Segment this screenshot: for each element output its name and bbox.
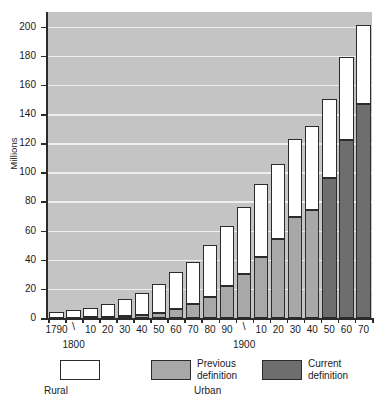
y-axis-line <box>46 12 48 320</box>
x-axis-line <box>46 318 374 320</box>
x-axis-label: 20 <box>273 324 284 335</box>
x-axis-tick <box>201 318 203 323</box>
x-axis-tick <box>116 318 118 323</box>
x-axis-label: 50 <box>324 324 335 335</box>
bar-segment-rural <box>305 126 319 209</box>
population-bar-chart: Millions 020406080100120140160180200 179… <box>0 0 392 400</box>
bar-segment-rural <box>322 99 336 178</box>
y-axis-tick <box>41 143 47 145</box>
x-axis-label: 30 <box>290 324 301 335</box>
bar-segment-rural <box>83 308 97 318</box>
bar-segment-rural <box>254 184 268 257</box>
x-axis-tick <box>236 318 238 323</box>
bar <box>135 12 149 318</box>
y-axis-tick <box>41 27 47 29</box>
x-axis-tick <box>150 318 152 323</box>
y-axis-label: 180 <box>2 51 36 61</box>
x-axis-label: 50 <box>153 324 164 335</box>
bar-segment-rural <box>237 207 251 274</box>
x-axis-label: 10 <box>256 324 267 335</box>
bar-segment-rural <box>101 304 115 317</box>
y-axis-tick <box>41 85 47 87</box>
bar <box>101 12 115 318</box>
bar <box>152 12 166 318</box>
x-axis-label: 40 <box>307 324 318 335</box>
y-axis-label: 120 <box>2 138 36 148</box>
bar <box>83 12 97 318</box>
x-axis-label: 40 <box>136 324 147 335</box>
y-axis-tick <box>41 172 47 174</box>
legend-swatch-current-definition <box>262 360 302 380</box>
bar <box>305 12 319 318</box>
x-axis-label: 70 <box>358 324 369 335</box>
legend-group-label-urban: Urban <box>194 385 221 396</box>
y-axis-title: Millions <box>8 119 19 189</box>
bar <box>254 12 268 318</box>
y-axis-tick <box>41 318 47 320</box>
x-axis-tick <box>287 318 289 323</box>
x-axis-label: 90 <box>221 324 232 335</box>
legend-label-current-definition: Current definition <box>308 358 348 381</box>
bar-segment-previous-definition <box>203 297 217 318</box>
bar <box>203 12 217 318</box>
bar-segment-rural <box>288 139 302 217</box>
plot-inner <box>48 12 372 318</box>
y-axis-tick <box>41 260 47 262</box>
bar <box>237 12 251 318</box>
y-axis-label: 100 <box>2 167 36 177</box>
bar <box>66 12 80 318</box>
y-axis-label: 60 <box>2 226 36 236</box>
y-axis-label: 80 <box>2 196 36 206</box>
x-axis-tick <box>321 318 323 323</box>
legend-label-previous-definition: Previous definition <box>197 358 237 381</box>
century-break-marker: \ <box>72 321 75 332</box>
x-axis-tick <box>65 318 67 323</box>
bar-segment-rural <box>118 299 132 316</box>
x-axis-tick <box>184 318 186 323</box>
bar-segment-previous-definition <box>220 286 234 318</box>
legend-swatch-rural <box>60 360 100 380</box>
bar <box>339 12 353 318</box>
y-axis-tick <box>41 289 47 291</box>
x-axis-tick <box>372 318 374 323</box>
x-axis-label: 80 <box>204 324 215 335</box>
x-axis-tick <box>270 318 272 323</box>
x-axis-tick <box>253 318 255 323</box>
bar-segment-rural <box>66 310 80 317</box>
bar-segment-previous-definition <box>169 309 183 318</box>
x-axis-label: 60 <box>170 324 181 335</box>
bar <box>186 12 200 318</box>
bar <box>356 12 370 318</box>
x-axis-tick <box>219 318 221 323</box>
x-axis-label: 20 <box>102 324 113 335</box>
bar-segment-current-definition <box>356 104 370 318</box>
x-axis-tick <box>82 318 84 323</box>
bar-segment-previous-definition <box>288 217 302 318</box>
bar <box>169 12 183 318</box>
plot-area <box>48 12 372 318</box>
y-axis-label: 0 <box>2 313 36 323</box>
bar-segment-rural <box>356 25 370 104</box>
x-axis-tick <box>99 318 101 323</box>
x-axis-tick <box>355 318 357 323</box>
y-axis-label: 20 <box>2 284 36 294</box>
bar-segment-rural <box>186 262 200 304</box>
x-axis-label: 10 <box>85 324 96 335</box>
bar <box>49 12 63 318</box>
y-axis-label: 40 <box>2 255 36 265</box>
y-axis-tick <box>41 231 47 233</box>
bar-segment-previous-definition <box>186 304 200 318</box>
bar-segment-previous-definition <box>237 274 251 318</box>
y-axis-label: 140 <box>2 109 36 119</box>
x-axis-label: 70 <box>187 324 198 335</box>
bar-segment-rural <box>339 57 353 141</box>
legend-group-label-rural: Rural <box>44 385 68 396</box>
century-label: 1800 <box>62 339 84 350</box>
x-axis-label: 60 <box>341 324 352 335</box>
bar-segment-rural <box>152 284 166 313</box>
bar-segment-current-definition <box>322 178 336 318</box>
bar-segment-previous-definition <box>254 257 268 318</box>
bar-segment-rural <box>135 293 149 315</box>
x-axis-tick <box>304 318 306 323</box>
century-label: 1900 <box>233 339 255 350</box>
